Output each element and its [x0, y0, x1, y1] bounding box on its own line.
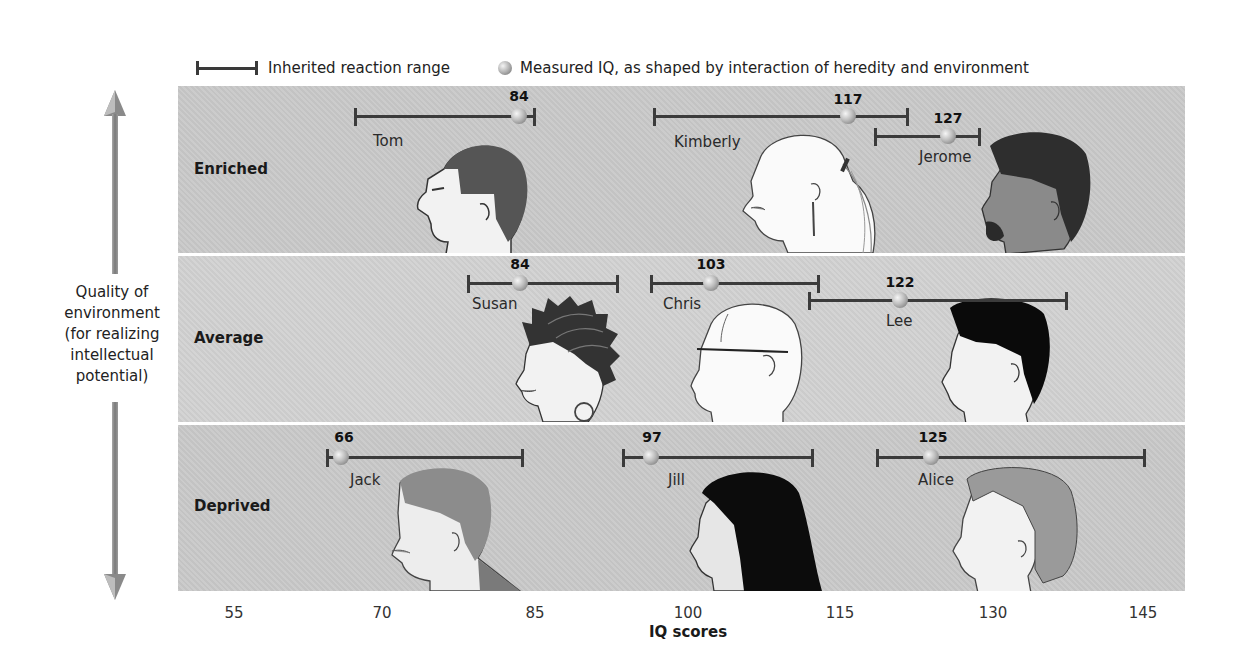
chart-panel: Enriched 84	[178, 86, 1185, 591]
x-tick: 100	[674, 604, 703, 622]
jack-face-icon	[370, 463, 540, 591]
alice-measured-iq-dot	[923, 449, 939, 465]
x-tick: 85	[525, 604, 544, 622]
susan-reaction-range	[468, 275, 618, 291]
tom-measured-iq-dot	[511, 108, 527, 124]
jack-name-label: Jack	[350, 471, 381, 489]
jerome-reaction-range	[875, 128, 980, 144]
band-deprived: Deprived 66 Jack	[178, 425, 1185, 591]
tom-reaction-range	[355, 108, 535, 124]
jerome-measured-iq-dot	[940, 128, 956, 144]
kimberly-measured-iq-dot	[840, 108, 856, 124]
band-label: Average	[194, 329, 263, 347]
tom-iq-value: 84	[509, 88, 528, 104]
jerome-face-icon	[976, 124, 1096, 253]
alice-face-icon	[943, 461, 1093, 591]
jill-measured-iq-dot	[643, 449, 659, 465]
band-label: Enriched	[194, 160, 268, 178]
x-tick: 130	[979, 604, 1008, 622]
reaction-range-legend-icon	[196, 61, 258, 75]
jill-iq-value: 97	[642, 429, 661, 445]
jerome-name-label: Jerome	[919, 148, 972, 166]
x-axis-label: IQ scores	[649, 623, 727, 641]
band-average: Average 84 Susan	[178, 256, 1185, 422]
measured-iq-legend-icon	[498, 61, 512, 75]
jack-reaction-range	[327, 449, 523, 465]
kimberly-reaction-range	[654, 108, 908, 124]
chris-face-icon	[683, 294, 813, 422]
susan-face-icon	[508, 294, 628, 422]
lee-face-icon	[936, 294, 1056, 422]
jill-reaction-range	[623, 449, 813, 465]
susan-iq-value: 84	[510, 256, 529, 272]
lee-measured-iq-dot	[892, 292, 908, 308]
x-tick: 115	[826, 604, 855, 622]
x-tick: 145	[1129, 604, 1158, 622]
alice-iq-value: 125	[918, 429, 947, 445]
x-tick: 55	[224, 604, 243, 622]
legend: Inherited reaction range Measured IQ, as…	[196, 56, 1029, 80]
legend-dot-label: Measured IQ, as shaped by interaction of…	[520, 59, 1029, 77]
legend-range-label: Inherited reaction range	[268, 59, 450, 77]
alice-name-label: Alice	[918, 471, 954, 489]
tom-face-icon	[406, 124, 536, 253]
arrow-down-icon	[100, 572, 130, 602]
kimberly-iq-value: 117	[833, 91, 862, 107]
lee-iq-value: 122	[885, 274, 914, 290]
lee-name-label: Lee	[886, 312, 913, 330]
band-enriched: Enriched 84	[178, 86, 1185, 253]
chris-measured-iq-dot	[703, 275, 719, 291]
susan-name-label: Susan	[472, 295, 518, 313]
jill-name-label: Jill	[668, 471, 685, 489]
band-label: Deprived	[194, 497, 271, 515]
chris-name-label: Chris	[663, 295, 701, 313]
x-tick: 70	[372, 604, 391, 622]
chris-iq-value: 103	[696, 256, 725, 272]
kimberly-face-icon	[733, 126, 883, 253]
alice-reaction-range	[877, 449, 1145, 465]
jack-measured-iq-dot	[333, 449, 349, 465]
y-axis-label: Quality of environment (for realizing in…	[52, 282, 172, 387]
susan-measured-iq-dot	[512, 275, 528, 291]
kimberly-name-label: Kimberly	[674, 133, 741, 151]
jerome-iq-value: 127	[933, 110, 962, 126]
jack-iq-value: 66	[334, 429, 353, 445]
jill-face-icon	[674, 463, 834, 591]
tom-name-label: Tom	[373, 132, 403, 150]
lee-reaction-range	[809, 292, 1067, 308]
chris-reaction-range	[651, 275, 819, 291]
